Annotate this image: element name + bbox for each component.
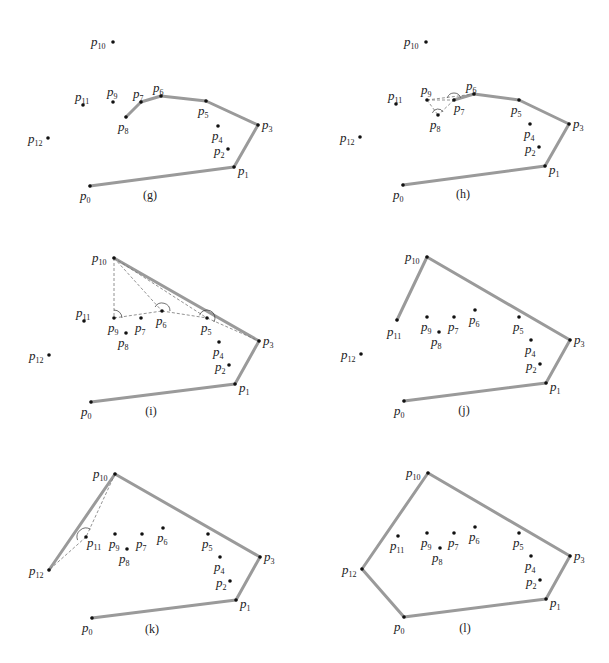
label-p5: p5: [197, 103, 209, 120]
label-p10: p10: [90, 34, 106, 51]
label-p11: p11: [86, 535, 101, 552]
label-p11: p11: [387, 88, 402, 105]
panel-caption: (j): [458, 403, 469, 417]
label-p3: p3: [572, 116, 584, 133]
label-p12: p12: [341, 562, 357, 579]
label-p6: p6: [156, 530, 168, 547]
point-p2: [227, 363, 231, 367]
point-p1: [232, 165, 236, 169]
point-p8: [124, 115, 128, 119]
point-p11: [395, 318, 399, 322]
label-p8: p8: [430, 334, 442, 351]
label-p10: p10: [91, 250, 107, 267]
label-p5: p5: [200, 320, 212, 337]
panel-caption: (l): [459, 621, 470, 635]
point-p12: [360, 567, 364, 571]
point-p3: [567, 122, 571, 126]
point-p12: [359, 352, 363, 356]
label-p9: p9: [106, 84, 118, 101]
convex-hull-figure: p0p1p2p3p4p5p6p7p8p9p10p11p12(g)p0p1p2p3…: [0, 0, 609, 663]
label-p4: p4: [524, 342, 536, 359]
label-p12: p12: [27, 131, 43, 148]
point-p8: [438, 546, 442, 550]
dashed-line-p10-p6: [114, 258, 162, 311]
panel-g: p0p1p2p3p4p5p6p7p8p9p10p11p12(g): [27, 34, 273, 205]
label-p7: p7: [453, 100, 465, 117]
point-p8: [436, 113, 440, 117]
label-p6: p6: [465, 78, 477, 95]
point-p0: [402, 399, 406, 403]
label-p2: p2: [524, 141, 536, 158]
point-p10: [111, 40, 115, 44]
panel-h: p0p1p2p3p4p5p6p7p8p9p10p11p12(h): [339, 34, 584, 204]
point-p12: [358, 135, 362, 139]
label-p11: p11: [386, 324, 401, 341]
panel-l: p0p1p2p3p4p5p6p7p8p9p10p11p12(l): [341, 465, 585, 636]
label-p0: p0: [393, 619, 405, 636]
dashed-line-p10-p11: [86, 474, 115, 537]
label-p10: p10: [404, 249, 420, 266]
label-p10: p10: [92, 466, 108, 483]
label-p7: p7: [132, 86, 144, 103]
label-p1: p1: [548, 162, 560, 179]
label-p12: p12: [28, 348, 44, 365]
point-p10: [424, 40, 428, 44]
label-p11: p11: [389, 538, 404, 555]
label-p4: p4: [523, 126, 535, 143]
point-p3: [256, 123, 260, 127]
point-p1: [544, 597, 548, 601]
hull-path: [403, 94, 569, 185]
label-p6: p6: [468, 529, 480, 546]
label-p2: p2: [214, 359, 226, 376]
label-p12: p12: [339, 130, 355, 147]
point-p3: [568, 338, 572, 342]
label-p4: p4: [211, 128, 223, 145]
label-p0: p0: [393, 403, 405, 420]
label-p9: p9: [420, 82, 432, 99]
label-p4: p4: [524, 558, 536, 575]
label-p1: p1: [238, 380, 250, 397]
point-p0: [88, 184, 92, 188]
label-p7: p7: [134, 320, 146, 337]
point-p3: [257, 339, 261, 343]
point-p0: [89, 400, 93, 404]
label-p9: p9: [108, 536, 120, 553]
label-p0: p0: [79, 188, 91, 205]
panel-caption: (k): [145, 622, 159, 636]
point-p2: [538, 578, 542, 582]
label-p2: p2: [213, 143, 225, 160]
label-p1: p1: [549, 379, 561, 396]
point-p10: [113, 472, 117, 476]
label-p6: p6: [468, 312, 480, 329]
label-p3: p3: [261, 117, 273, 134]
label-p6: p6: [152, 80, 164, 97]
point-p5: [517, 98, 521, 102]
label-p10: p10: [403, 34, 419, 51]
hull-path: [90, 96, 258, 186]
point-p2: [537, 145, 541, 149]
hull-path: [49, 474, 260, 618]
point-p0: [401, 183, 405, 187]
panel-caption: (i): [145, 404, 156, 418]
label-p7: p7: [447, 319, 459, 336]
point-p2: [538, 362, 542, 366]
label-p8: p8: [431, 550, 443, 567]
label-p9: p9: [420, 319, 432, 336]
point-p12: [47, 568, 51, 572]
label-p5: p5: [510, 102, 522, 119]
label-p3: p3: [573, 548, 585, 565]
label-p1: p1: [237, 163, 249, 180]
panel-j: p0p1p2p3p4p5p6p7p8p9p10p11p12(j): [340, 249, 585, 420]
point-p3: [568, 554, 572, 558]
label-p9: p9: [107, 320, 119, 337]
label-p0: p0: [392, 187, 404, 204]
label-p6: p6: [155, 313, 167, 330]
point-p1: [234, 598, 238, 602]
label-p7: p7: [135, 536, 147, 553]
point-p1: [544, 381, 548, 385]
label-p9: p9: [420, 535, 432, 552]
point-p10: [426, 471, 430, 475]
point-p10: [112, 256, 116, 260]
point-p12: [46, 136, 50, 140]
label-p0: p0: [81, 620, 93, 637]
